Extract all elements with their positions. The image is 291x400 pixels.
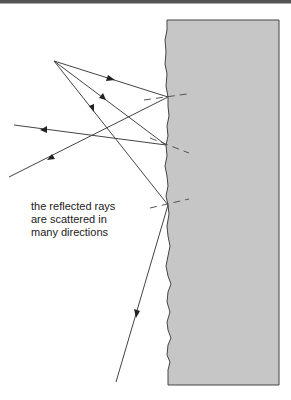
reflected-ray-1	[9, 97, 168, 177]
caption-line-1: the reflected rays	[31, 200, 115, 213]
arrow-icon	[40, 126, 47, 133]
rough-surface	[165, 20, 279, 385]
arrow-icon	[106, 75, 115, 81]
reflected-rays	[9, 97, 168, 382]
reflected-ray-3	[116, 205, 168, 382]
arrowheads	[40, 75, 140, 318]
arrow-icon	[99, 93, 106, 100]
arrow-icon	[89, 104, 94, 112]
caption-line-2: are scattered in	[31, 213, 115, 226]
caption: the reflected rays are scattered in many…	[31, 200, 115, 239]
caption-line-3: many directions	[31, 226, 115, 239]
